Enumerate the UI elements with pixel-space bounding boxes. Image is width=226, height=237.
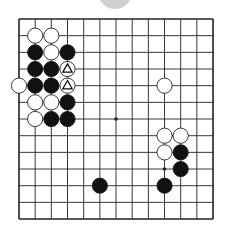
white-stone bbox=[44, 95, 59, 110]
star-point bbox=[114, 117, 118, 121]
black-stone bbox=[28, 45, 43, 60]
white-stone bbox=[60, 78, 75, 93]
white-stone bbox=[28, 95, 43, 110]
black-stone bbox=[60, 45, 75, 60]
white-stone bbox=[44, 45, 59, 60]
white-stone bbox=[28, 111, 43, 126]
white-stone bbox=[157, 145, 172, 160]
go-board-diagram bbox=[0, 0, 226, 237]
black-stone bbox=[44, 78, 59, 93]
black-stone bbox=[28, 61, 43, 76]
white-stone bbox=[157, 128, 172, 143]
turn-indicator bbox=[98, 0, 132, 9]
black-stone bbox=[44, 61, 59, 76]
white-stone bbox=[44, 28, 59, 43]
white-stone bbox=[173, 128, 188, 143]
star-points bbox=[114, 117, 166, 171]
turn-indicator-circle bbox=[98, 0, 132, 9]
white-stone bbox=[11, 78, 26, 93]
white-stone bbox=[60, 61, 75, 76]
black-stone bbox=[44, 111, 59, 126]
black-stone bbox=[60, 111, 75, 126]
black-stone bbox=[92, 178, 107, 193]
star-point bbox=[163, 167, 167, 171]
black-stone bbox=[157, 178, 172, 193]
black-stone bbox=[173, 161, 188, 176]
black-stone bbox=[28, 78, 43, 93]
white-stone bbox=[157, 78, 172, 93]
white-stone bbox=[28, 28, 43, 43]
black-stone bbox=[60, 95, 75, 110]
black-stone bbox=[173, 145, 188, 160]
